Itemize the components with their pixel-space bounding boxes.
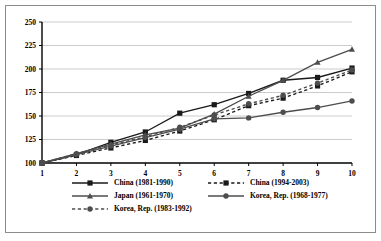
y-axis-tick-label: 125: [25, 135, 37, 144]
series-marker: [74, 151, 79, 156]
plot-area: 10012515017520022525012345678910China (1…: [0, 0, 381, 241]
legend-marker-sample: [223, 193, 228, 198]
series-marker: [246, 115, 251, 120]
y-axis-tick-label: 200: [25, 65, 37, 74]
x-axis-tick-label: 5: [178, 169, 182, 178]
series-marker: [315, 75, 320, 80]
legend-item-label: China (1981-1990): [114, 178, 173, 187]
y-axis-tick-label: 225: [25, 41, 37, 50]
series-marker: [349, 67, 354, 72]
chart-figure: 10012515017520022525012345678910China (1…: [0, 0, 381, 241]
series-marker: [212, 112, 217, 117]
y-axis-tick-label: 250: [25, 18, 37, 27]
x-axis-tick-label: 3: [109, 169, 113, 178]
series-marker: [39, 160, 44, 165]
x-axis-tick-label: 9: [316, 169, 320, 178]
x-axis-tick-label: 1: [40, 169, 44, 178]
series-marker: [177, 125, 182, 130]
legend-item-label: Korea, Rep. (1983-1992): [114, 204, 192, 213]
y-axis-tick-label: 150: [25, 112, 37, 121]
x-axis-tick-label: 7: [247, 169, 251, 178]
y-axis-tick-label: 100: [25, 159, 37, 168]
series-marker: [280, 110, 285, 115]
series-marker: [349, 98, 354, 103]
series-marker: [315, 80, 320, 85]
series-marker: [246, 101, 251, 106]
series-marker: [280, 93, 285, 98]
series-marker: [212, 102, 217, 107]
x-axis-tick-label: 6: [212, 169, 216, 178]
legend-marker-sample: [87, 206, 92, 211]
series-marker: [143, 134, 148, 139]
x-axis-tick-label: 8: [281, 169, 285, 178]
series-marker: [177, 111, 182, 116]
x-axis-tick-label: 2: [75, 169, 79, 178]
y-axis-tick-label: 175: [25, 88, 37, 97]
x-axis-tick-label: 4: [143, 169, 147, 178]
series-marker: [315, 105, 320, 110]
legend-item-label: Japan (1961-1970): [114, 191, 173, 200]
legend-item-label: Korea, Rep. (1968-1977): [250, 191, 328, 200]
legend-item-label: China (1994-2003): [250, 178, 309, 187]
x-axis-tick-label: 10: [348, 169, 356, 178]
line-chart: 10012515017520022525012345678910China (1…: [0, 0, 381, 241]
series-marker: [108, 142, 113, 147]
legend-marker-sample: [87, 180, 92, 185]
legend-marker-sample: [223, 180, 228, 185]
